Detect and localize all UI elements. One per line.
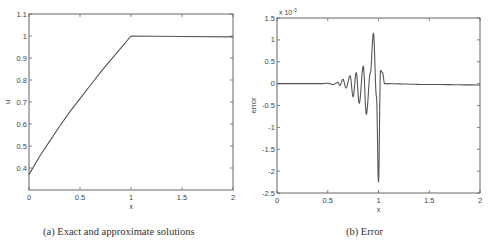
y-axis-label: error [249, 97, 258, 113]
y-tick-label: -2 [268, 167, 275, 176]
y-tick-label: 0.5 [17, 142, 27, 151]
y-tick-label: 0.7 [17, 98, 27, 107]
x-tick-label: 2 [231, 193, 235, 202]
x-tick-label: 0 [275, 196, 279, 205]
chart-b-error: 00.511.52-2.5-2-1.5-1-0.500.511.5xerrorx… [249, 7, 482, 214]
x-tick-label: 0 [27, 193, 31, 202]
y-tick-label: 1 [271, 35, 275, 44]
y-tick-label: 0.6 [17, 120, 27, 129]
x-tick-label: 1 [129, 193, 133, 202]
y-tick-label: 0.8 [17, 76, 27, 85]
y-tick-label: 0.4 [17, 164, 27, 173]
x-tick-label: 0.5 [75, 193, 85, 202]
x-axis-label: x [129, 202, 133, 211]
figure: 00.511.520.40.50.60.70.80.911.1xu 00.511… [0, 0, 488, 250]
x-tick-label: 1 [376, 196, 380, 205]
x-axis-label: x [377, 205, 381, 214]
x-tick-label: 1.5 [424, 196, 434, 205]
x-tick-label: 0.5 [323, 196, 333, 205]
y-exponent-label: x 10-3 [279, 7, 297, 16]
y-tick-label: 1.5 [265, 14, 275, 23]
y-tick-label: 1 [23, 32, 27, 41]
x-tick-label: 1.5 [177, 193, 187, 202]
axes-frame [29, 14, 233, 190]
y-tick-label: -1.5 [262, 145, 275, 154]
figure-canvas: 00.511.520.40.50.60.70.80.911.1xu 00.511… [0, 0, 488, 250]
y-tick-label: 0 [271, 79, 275, 88]
y-tick-label: -0.5 [262, 101, 275, 110]
caption-b: (b) Error [346, 226, 383, 237]
chart-a-solutions: 00.511.520.40.50.60.70.80.911.1xu [3, 10, 235, 212]
y-tick-label: 1.1 [17, 10, 27, 19]
y-tick-label: -2.5 [262, 189, 275, 198]
series-line [29, 36, 233, 175]
caption-a: (a) Exact and approximate solutions [43, 226, 195, 237]
y-tick-label: 0.9 [17, 54, 27, 63]
series-line [277, 33, 480, 182]
y-tick-label: -1 [268, 123, 275, 132]
y-axis-label: u [3, 100, 12, 104]
x-tick-label: 2 [478, 196, 482, 205]
y-tick-label: 0.5 [265, 57, 275, 66]
